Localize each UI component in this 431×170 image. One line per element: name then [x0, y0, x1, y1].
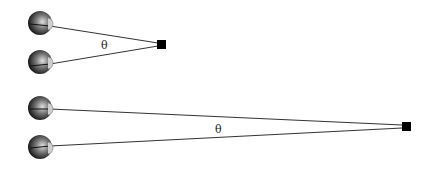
far-configuration: θ — [28, 96, 411, 159]
convergence-diagram: θ θ — [0, 0, 431, 170]
target-square-far — [402, 122, 411, 131]
angle-label-near: θ — [101, 39, 108, 52]
eyeball-icon — [28, 135, 53, 159]
eyeball-icon — [28, 50, 53, 74]
sight-line-far-top — [50, 109, 402, 125]
sight-line-far-bottom — [50, 128, 402, 146]
angle-label-far: θ — [215, 123, 222, 136]
eyeball-icon — [28, 11, 53, 35]
eyeball-icon — [28, 96, 53, 120]
target-square-near — [157, 40, 166, 49]
near-configuration: θ — [28, 11, 166, 74]
